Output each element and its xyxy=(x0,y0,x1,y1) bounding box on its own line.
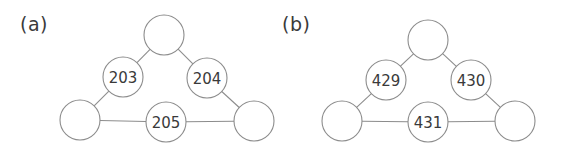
graph-edge xyxy=(486,94,501,108)
figure-canvas: (a) (b) 203204205 429430431 xyxy=(0,0,564,153)
node-label: 431 xyxy=(414,114,443,132)
graph-panel-b: 429430431 xyxy=(0,0,564,153)
graph-node-empty xyxy=(322,101,362,141)
graph-node-labeled: 429 xyxy=(366,60,406,100)
graph-node-empty xyxy=(495,101,535,141)
node-label: 430 xyxy=(457,72,486,90)
node-label: 429 xyxy=(372,72,401,90)
graph-node-empty xyxy=(408,20,448,60)
node-circle xyxy=(408,20,448,60)
graph-edge xyxy=(362,121,408,122)
node-circle xyxy=(322,101,362,141)
graph-node-labeled: 430 xyxy=(451,60,491,100)
graph-edge xyxy=(357,94,372,108)
graph-node-labeled: 431 xyxy=(408,102,448,142)
graph-edge xyxy=(443,54,457,67)
node-circle xyxy=(495,101,535,141)
graph-edge xyxy=(400,54,413,66)
graph-edge xyxy=(448,121,495,122)
